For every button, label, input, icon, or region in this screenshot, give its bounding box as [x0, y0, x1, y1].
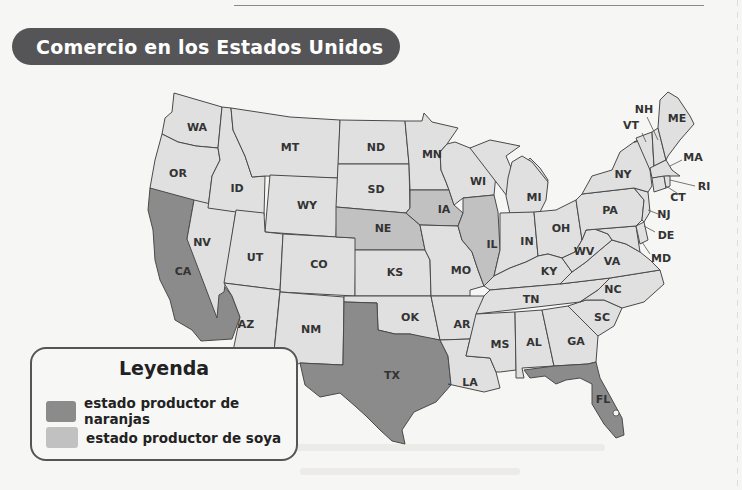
label-al: AL [526, 336, 542, 349]
legend-label-soy: estado productor de soya [86, 430, 281, 446]
label-sd: SD [367, 183, 384, 196]
label-in: IN [520, 235, 533, 248]
label-oh: OH [552, 222, 571, 235]
label-tx: TX [384, 369, 401, 382]
label-nc: NC [604, 283, 621, 296]
label-mt: MT [281, 141, 300, 154]
label-mn: MN [422, 148, 442, 161]
legend-title: Leyenda [32, 357, 296, 379]
label-la: LA [462, 376, 478, 389]
label-md: MD [651, 252, 671, 265]
label-va: VA [604, 255, 621, 268]
label-wa: WA [187, 121, 208, 134]
label-ia: IA [438, 203, 451, 216]
legend-swatch-soy [46, 427, 78, 448]
label-az: AZ [238, 318, 255, 331]
label-ut: UT [247, 251, 264, 264]
legend-item-oranges: estado productor de naranjas [46, 395, 296, 427]
state-me [658, 92, 694, 160]
label-wv: WV [574, 245, 595, 258]
legend: Leyenda estado productor de naranjas est… [30, 347, 298, 461]
label-ct: CT [670, 191, 686, 204]
label-ma: MA [683, 151, 703, 164]
label-il: IL [486, 238, 497, 251]
label-nh: NH [635, 103, 653, 116]
label-co: CO [310, 258, 327, 271]
legend-swatch-oranges [46, 401, 76, 422]
label-ky: KY [541, 265, 559, 278]
label-de: DE [658, 229, 675, 242]
label-ne: NE [375, 222, 392, 235]
label-nd: ND [367, 141, 385, 154]
label-mi: MI [526, 191, 541, 204]
legend-item-soy: estado productor de soya [46, 427, 281, 448]
label-ok: OK [401, 311, 419, 324]
label-ri: RI [698, 180, 711, 193]
label-nv: NV [193, 236, 211, 249]
label-wi: WI [470, 175, 486, 188]
lake-okeechobee [613, 410, 619, 416]
label-mo: MO [451, 264, 471, 277]
label-or: OR [169, 167, 187, 180]
label-ga: GA [567, 335, 585, 348]
legend-label-oranges: estado productor de naranjas [84, 395, 296, 427]
label-ny: NY [614, 168, 632, 181]
label-pa: PA [602, 204, 618, 217]
label-id: ID [230, 182, 243, 195]
label-me: ME [668, 112, 686, 125]
label-tn: TN [523, 293, 540, 306]
label-ca: CA [175, 265, 192, 278]
label-vt: VT [623, 119, 640, 132]
label-ms: MS [491, 338, 510, 351]
label-sc: SC [594, 311, 610, 324]
label-wy: WY [297, 199, 318, 212]
label-ar: AR [454, 318, 472, 331]
label-ks: KS [387, 266, 404, 279]
state-mi-lower [506, 156, 548, 214]
label-fl: FL [596, 393, 611, 406]
label-nj: NJ [657, 208, 670, 221]
label-nm: NM [301, 323, 321, 336]
